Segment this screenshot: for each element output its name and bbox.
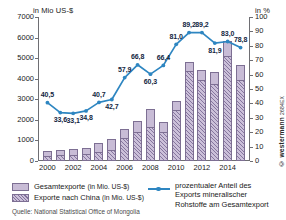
line-point-label: 89,2: [182, 21, 195, 28]
line-point-label: 81,9: [208, 47, 221, 54]
right-tick-label: 80: [255, 41, 263, 50]
x-axis-label: 2008: [142, 163, 159, 172]
legend-total-unit: (in Mio. US-$): [87, 183, 129, 190]
line-point: [200, 31, 204, 35]
legend-line-label-2: Exports mineralischer: [175, 190, 247, 199]
right-tick-label: 10: [255, 142, 263, 151]
line-point: [110, 98, 114, 102]
line-point-label: 40,7: [92, 91, 105, 98]
watermark: © westermann 2684EX: [278, 96, 285, 167]
line-point: [174, 42, 178, 46]
right-tick: [250, 89, 253, 90]
right-tick-label: 30: [255, 113, 263, 122]
line-point: [97, 100, 101, 104]
chart-container: in Mio US-$ in % 01000200030004000500060…: [0, 0, 286, 220]
line-point: [58, 111, 62, 115]
right-tick: [250, 75, 253, 76]
x-axis-label: 2002: [65, 163, 82, 172]
left-tick-label: 3000: [17, 94, 34, 103]
line-point-label: 33,1: [67, 117, 80, 124]
right-tick: [250, 46, 253, 47]
legend-line-label-1: prozentualer Anteil des: [175, 181, 251, 190]
line-point-label: 89,2: [195, 21, 208, 28]
right-tick-label: 70: [255, 55, 263, 64]
line-point: [226, 40, 230, 44]
source-note: Quelle: National Statistical Office of M…: [12, 208, 140, 215]
legend-china-unit: (in Mio. US-$): [102, 194, 144, 201]
line-point-label: 42,7: [105, 103, 118, 110]
x-axis-label: 2014: [219, 163, 236, 172]
left-tick-label: 0: [30, 156, 34, 165]
line-point: [71, 111, 75, 115]
right-tick-label: 20: [255, 127, 263, 136]
plot-area: 01000200030004000500060007000 0102030405…: [38, 17, 250, 161]
line-point-label: 40,5: [41, 91, 54, 98]
left-tick-label: 7000: [17, 12, 34, 21]
line-point-label: 34,8: [79, 114, 92, 121]
x-axis-label: 2012: [194, 163, 211, 172]
left-tick-label: 2000: [17, 115, 34, 124]
line-point-label: 57,9: [118, 66, 131, 73]
left-tick-label: 1000: [17, 135, 34, 144]
right-tick: [250, 17, 253, 18]
line-point-label: 60,3: [144, 78, 157, 85]
line-point: [161, 63, 165, 67]
legend-total-label: Gesamtexporte: [34, 182, 85, 191]
watermark-text: © westermann: [278, 117, 285, 167]
right-tick-label: 40: [255, 98, 263, 107]
right-tick: [250, 31, 253, 32]
right-tick: [250, 161, 253, 162]
line-point-label: 66,8: [131, 53, 144, 60]
line-marker-icon: [148, 185, 170, 193]
line-point: [187, 31, 191, 35]
x-axis-label: 2000: [39, 163, 56, 172]
right-tick-label: 90: [255, 26, 263, 35]
line-path: [47, 33, 240, 114]
right-tick-label: 100: [255, 12, 268, 21]
line-point: [46, 101, 50, 105]
legend-china-label: Exporte nach China: [34, 193, 100, 202]
right-tick-label: 60: [255, 70, 263, 79]
right-tick: [250, 60, 253, 61]
left-tick-label: 5000: [17, 53, 34, 62]
right-tick: [250, 147, 253, 148]
x-axis-label: 2006: [116, 163, 133, 172]
total-swatch-icon: [12, 183, 29, 191]
x-axis-label: 2010: [168, 163, 185, 172]
legend-line-label-3: Rohstoffe am Gesamtexport: [175, 200, 269, 209]
line-point-label: 66,4: [157, 54, 170, 61]
line-point: [123, 76, 127, 80]
left-tick: [35, 161, 38, 162]
legend-item-total: Gesamtexporte (in Mio. US-$): [12, 182, 129, 191]
china-swatch-icon: [12, 194, 29, 202]
right-tick: [250, 118, 253, 119]
right-tick-label: 0: [255, 156, 259, 165]
left-tick-label: 4000: [17, 74, 34, 83]
line-point-label: 81,0: [170, 33, 183, 40]
right-tick: [250, 103, 253, 104]
line-point-label: 83,0: [221, 30, 234, 37]
legend-item-china: Exporte nach China (in Mio. US-$): [12, 193, 144, 202]
right-tick-label: 50: [255, 84, 263, 93]
line-point-label: 33,6: [54, 116, 67, 123]
line-point: [84, 109, 88, 113]
left-tick-label: 6000: [17, 33, 34, 42]
line-point: [136, 63, 140, 67]
line-point-label: 78,8: [234, 36, 247, 43]
x-axis-label: 2004: [91, 163, 108, 172]
line-series: [38, 17, 250, 161]
left-axis-title: in Mio US-$: [33, 6, 73, 15]
watermark-code: 2684EX: [279, 96, 285, 115]
line-point: [213, 41, 217, 45]
line-point: [149, 72, 153, 76]
line-point: [239, 46, 243, 50]
right-tick: [250, 132, 253, 133]
